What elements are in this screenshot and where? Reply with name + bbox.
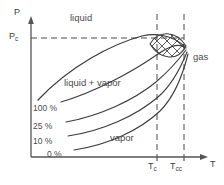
tc-axis-label: Tc — [148, 162, 157, 171]
region-label-liquid: liquid — [70, 13, 92, 23]
dome-upper-branch — [38, 35, 184, 100]
fraction-label-25: 25 % — [33, 122, 52, 131]
pc-axis-label: Pc — [9, 32, 18, 41]
phase-diagram-figure: P Pc T Tc Tcc liquid liquid + vapor vapo… — [0, 0, 224, 185]
curve-10-percent — [68, 52, 187, 136]
curve-100-percent — [61, 45, 186, 102]
region-label-liquid-vapor: liquid + vapor — [64, 78, 121, 88]
region-label-vapor: vapor — [110, 133, 134, 143]
tcc-symbol: T — [170, 161, 176, 171]
fraction-label-10: 10 % — [33, 137, 52, 146]
region-label-gas: gas — [193, 52, 208, 62]
tcc-axis-label: Tcc — [170, 162, 182, 171]
phase-diagram-svg — [0, 0, 224, 185]
fraction-label-0: 0 % — [47, 150, 62, 159]
x-axis-label: T — [210, 160, 216, 169]
y-axis-label: P — [14, 8, 20, 17]
critical-region-hatching — [140, 9, 201, 83]
tcc-subscript: cc — [176, 165, 183, 172]
pc-subscript: c — [15, 35, 18, 42]
fraction-label-100: 100 % — [33, 104, 57, 113]
tc-subscript: c — [154, 165, 157, 172]
tc-symbol: T — [148, 161, 154, 171]
